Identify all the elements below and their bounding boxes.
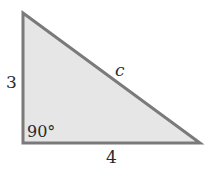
label-side-vertical: 3 [6, 72, 17, 92]
label-right-angle: 90° [27, 122, 55, 141]
triangle-diagram: 3 c 90° 4 [0, 0, 216, 170]
label-side-horizontal: 4 [106, 147, 117, 167]
label-hypotenuse: c [115, 60, 125, 80]
